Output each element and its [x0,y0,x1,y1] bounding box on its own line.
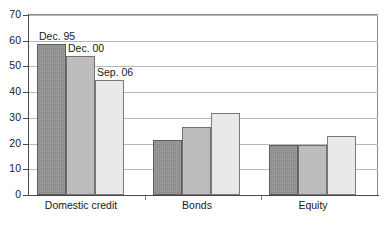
x-axis-category-label: Equity [253,199,373,211]
y-tick-label: 60 [9,35,28,45]
bar [37,44,66,195]
x-axis-category-label: Bonds [137,199,257,211]
bar [153,140,182,195]
y-tick-label: 40 [9,86,28,96]
series-annotation: Sep. 06 [97,67,133,78]
y-tick-label: 10 [9,163,28,173]
bar [327,136,356,195]
bar [182,127,211,195]
bar-chart: 010203040506070 Dec. 95Dec. 00Sep. 06 Do… [0,0,389,230]
x-axis-line [28,195,379,196]
bar [95,80,124,195]
y-tick-label: 20 [9,138,28,148]
series-annotation: Dec. 00 [68,43,104,54]
series-annotation: Dec. 95 [39,31,75,42]
bar [66,56,95,195]
x-axis-category-label: Domestic credit [21,199,141,211]
y-tick-label: 0 [15,189,28,199]
bar [298,145,327,195]
y-tick-label: 50 [9,60,28,70]
y-tick-label: 30 [9,112,28,122]
bar [269,145,298,195]
bar [211,113,240,195]
y-tick-label: 70 [9,9,28,19]
